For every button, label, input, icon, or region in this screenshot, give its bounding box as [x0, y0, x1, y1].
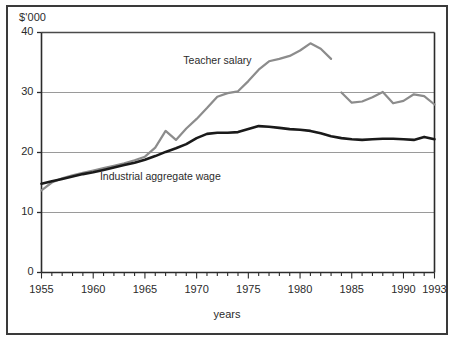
y-tick-label-20: 20 — [12, 145, 34, 157]
y-tick-label-30: 30 — [12, 85, 34, 97]
x-tick-label-1975: 1975 — [228, 283, 268, 295]
y-tick-label-10: 10 — [12, 205, 34, 217]
chart-figure: $'000 010203040 195519601965197019751980… — [0, 0, 454, 341]
x-tick-label-1993: 1993 — [415, 283, 454, 295]
x-tick-label-1960: 1960 — [73, 283, 113, 295]
x-axis-title: years — [187, 308, 267, 320]
y-tick-label-0: 0 — [12, 265, 34, 277]
x-tick-label-1965: 1965 — [125, 283, 165, 295]
x-tick-label-1955: 1955 — [22, 283, 62, 295]
x-tick-label-1980: 1980 — [280, 283, 320, 295]
annotation-0: Teacher salary — [183, 54, 251, 66]
y-tick-label-40: 40 — [12, 25, 34, 37]
annotation-1: Industrial aggregate wage — [100, 170, 221, 182]
x-tick-label-1985: 1985 — [332, 283, 372, 295]
series-line-1 — [341, 92, 434, 105]
x-tick-label-1970: 1970 — [177, 283, 217, 295]
